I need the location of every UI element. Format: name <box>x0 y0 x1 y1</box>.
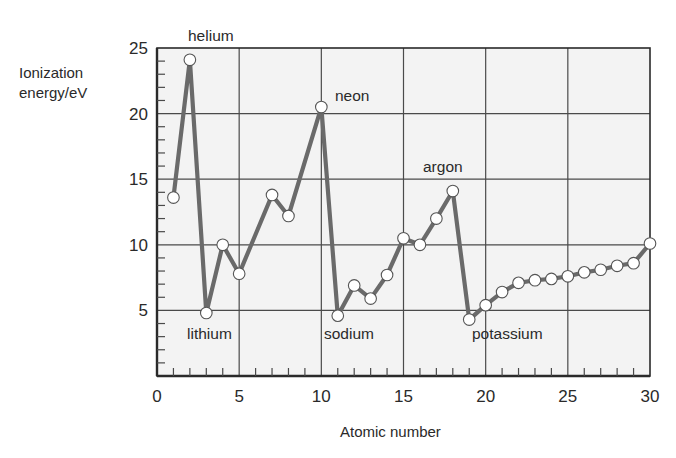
data-point-marker <box>611 260 623 272</box>
data-point-marker <box>201 307 213 319</box>
y-tick-label: 15 <box>129 170 148 189</box>
data-point-marker <box>644 238 656 250</box>
x-tick-label: 15 <box>394 387 413 406</box>
y-axis-label-line1: Ionization <box>19 64 83 81</box>
annotation-potassium: potassium <box>472 325 543 342</box>
data-point-marker <box>168 192 180 204</box>
data-point-marker <box>431 213 443 225</box>
x-tick-label: 25 <box>558 387 577 406</box>
data-point-marker <box>398 232 410 244</box>
data-point-marker <box>480 299 492 311</box>
data-point-marker <box>283 210 295 222</box>
data-point-marker <box>628 257 640 269</box>
x-tick-label: 30 <box>641 387 660 406</box>
data-point-marker <box>546 273 558 285</box>
x-tick-label: 20 <box>476 387 495 406</box>
y-axis-label-line2: energy/eV <box>19 84 87 101</box>
data-point-marker <box>365 293 377 305</box>
data-point-marker <box>381 269 393 281</box>
ionization-energy-chart: 051015202530510152025 heliumneonargonlit… <box>0 0 676 458</box>
data-point-marker <box>513 277 525 289</box>
data-point-marker <box>266 189 278 201</box>
annotation-helium: helium <box>188 27 234 44</box>
data-point-marker <box>233 268 245 280</box>
y-tick-label: 10 <box>129 236 148 255</box>
data-point-marker <box>184 54 196 66</box>
x-axis-label: Atomic number <box>340 423 441 440</box>
data-point-marker <box>496 286 508 298</box>
data-point-marker <box>463 314 475 326</box>
data-point-marker <box>332 310 344 322</box>
data-point-marker <box>595 264 607 276</box>
x-tick-label: 0 <box>152 387 161 406</box>
data-point-marker <box>562 270 574 282</box>
y-tick-label: 20 <box>129 105 148 124</box>
data-point-marker <box>414 239 426 251</box>
annotation-neon: neon <box>335 87 369 104</box>
data-point-marker <box>348 280 360 292</box>
y-tick-label: 5 <box>139 301 148 320</box>
x-tick-label: 5 <box>234 387 243 406</box>
annotation-sodium: sodium <box>324 325 374 342</box>
data-point-marker <box>217 239 229 251</box>
data-point-marker <box>447 185 459 197</box>
annotation-lithium: lithium <box>187 325 232 342</box>
annotation-argon: argon <box>423 158 463 175</box>
data-point-marker <box>578 267 590 279</box>
x-tick-label: 10 <box>312 387 331 406</box>
data-point-marker <box>316 101 328 113</box>
data-point-marker <box>529 274 541 286</box>
y-tick-label: 25 <box>129 39 148 58</box>
